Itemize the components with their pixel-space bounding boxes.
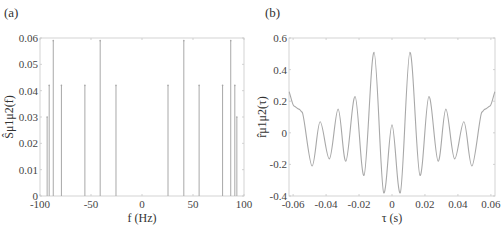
axis-ticks-a: -100-5005010000.010.020.030.040.050.06 [19,32,253,210]
stem-marker [230,40,232,42]
x-tick-label: 100 [236,198,253,210]
x-tick-label: -0.02 [348,198,371,210]
stem-marker [167,85,169,87]
stem-marker [115,85,117,87]
y-tick-label: 0.04 [19,85,39,97]
line-series-b [289,52,495,193]
panel-label-b: (b) [265,5,280,20]
y-tick-label: -0.2 [270,158,287,170]
x-tick-label: 0.06 [481,198,501,210]
y-tick-label: 0.02 [19,137,38,149]
x-tick-label: 0.02 [415,198,434,210]
y-tick-label: 0 [33,190,39,202]
stem-marker [52,40,54,42]
x-tick-label: -0.04 [315,198,338,210]
y-tick-label: 0.03 [19,111,39,123]
stem-marker [234,85,236,87]
stem-marker [84,85,86,87]
x-tick-label: 0.04 [448,198,468,210]
y-tick-label: 0.4 [273,64,287,76]
x-tick-label: 0 [389,198,395,210]
y-tick-label: 0 [282,127,288,139]
y-axis-label-a: Ŝμ1μ2(f) [2,95,16,139]
stem-marker [46,116,48,118]
y-tick-label: -0.4 [270,190,288,202]
panel-label-a: (a) [4,5,18,20]
y-axis-label-b: r̂μ1μ2(τ) [255,96,269,138]
y-tick-label: 0.2 [273,95,287,107]
figure: (a) -100-5005010000.010.020.030.040.050.… [0,0,503,229]
y-tick-label: 0.06 [19,32,39,44]
plot-frame-b [289,38,495,196]
stem-marker [99,40,101,42]
chart-a: (a) -100-5005010000.010.020.030.040.050.… [2,5,253,225]
stem-marker [236,116,238,118]
y-tick-label: 0.05 [19,58,39,70]
x-axis-label-a: f (Hz) [128,211,157,225]
stem-marker [222,85,224,87]
stem-marker [61,85,63,87]
stem-marker [198,85,200,87]
y-tick-label: 0.01 [19,164,38,176]
x-axis-label-b: τ (s) [382,211,402,225]
plot-frame-a [40,38,244,196]
x-tick-label: 50 [188,198,200,210]
stem-marker [183,40,185,42]
chart-b: (b) -0.06-0.04-0.0200.020.040.06-0.4-0.2… [255,5,501,225]
x-tick-label: -50 [84,198,99,210]
x-tick-label: 0 [139,198,145,210]
stem-series-a [46,40,237,196]
stem-marker [48,85,50,87]
y-tick-label: 0.6 [273,32,287,44]
